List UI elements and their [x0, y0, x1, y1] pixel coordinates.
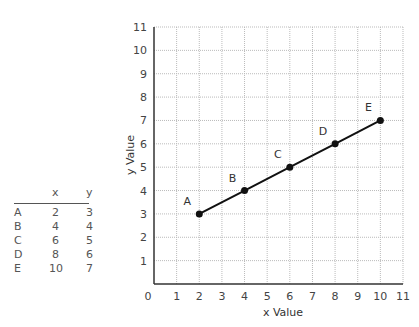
data-point-label: A [184, 195, 192, 208]
y-tick-label: 1 [140, 255, 147, 268]
x-tick-label: 6 [286, 290, 293, 303]
x-tick-label: 3 [218, 290, 225, 303]
y-tick-label: 5 [140, 161, 147, 174]
data-point-label: B [229, 172, 237, 185]
data-point-label: C [274, 148, 282, 161]
x-tick-label: 0 [145, 290, 152, 303]
x-tick-label: 1 [173, 290, 180, 303]
x-tick-label: 10 [373, 290, 387, 303]
data-point-marker [196, 210, 203, 217]
y-tick-label: 6 [140, 138, 147, 151]
data-point-marker [286, 164, 293, 171]
x-tick-label: 5 [264, 290, 271, 303]
y-axis-title: y Value [124, 135, 137, 175]
data-point-label: E [365, 101, 372, 114]
x-tick-label: 7 [309, 290, 316, 303]
y-tick-label: 9 [140, 68, 147, 81]
data-point-marker [241, 187, 248, 194]
x-tick-label: 2 [196, 290, 203, 303]
x-tick-label: 11 [396, 290, 410, 303]
line-chart: 012345678910111234567891011x Valuey Valu… [0, 0, 419, 327]
x-tick-label: 8 [332, 290, 339, 303]
x-tick-label: 4 [241, 290, 248, 303]
y-tick-label: 10 [133, 44, 147, 57]
data-point-marker [377, 117, 384, 124]
y-tick-label: 2 [140, 231, 147, 244]
y-tick-label: 11 [133, 21, 147, 34]
y-tick-label: 7 [140, 114, 147, 127]
y-tick-label: 8 [140, 91, 147, 104]
y-tick-label: 4 [140, 185, 147, 198]
x-axis-title: x Value [263, 306, 303, 319]
x-tick-label: 9 [354, 290, 361, 303]
data-point-label: D [319, 125, 327, 138]
data-point-marker [332, 140, 339, 147]
y-tick-label: 3 [140, 208, 147, 221]
